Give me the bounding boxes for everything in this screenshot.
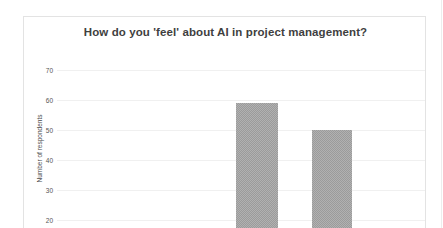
page-edge-line <box>441 0 442 228</box>
gridline: 70 <box>57 70 426 71</box>
y-tick-label: 30 <box>46 187 53 194</box>
y-tick-label: 50 <box>46 127 53 134</box>
y-tick-label: 20 <box>46 217 53 224</box>
gridline: 60 <box>57 100 426 101</box>
y-tick-label: 40 <box>46 157 53 164</box>
screenshot-root: How do you 'feel' about AI in project ma… <box>0 0 443 228</box>
plot-area: 70605040302010 <box>57 37 426 228</box>
y-tick-label: 60 <box>46 97 53 104</box>
bar <box>312 130 352 228</box>
y-axis-title: Number of respondents <box>36 94 43 204</box>
bar <box>236 103 278 228</box>
y-tick-label: 70 <box>46 67 53 74</box>
chart-card: How do you 'feel' about AI in project ma… <box>23 16 426 228</box>
